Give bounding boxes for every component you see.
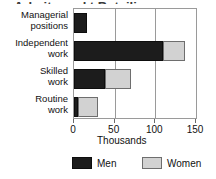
x-axis-tick [154, 119, 155, 123]
x-axis-tick-label: 150 [180, 124, 210, 135]
category-label-line: Managerial [0, 10, 68, 21]
x-axis-tick [195, 119, 196, 123]
legend-item-women: Women [142, 156, 201, 170]
legend-item-men: Men [72, 156, 116, 170]
x-axis-tick-label: 0 [58, 124, 88, 135]
legend-label-men: Men [97, 158, 116, 169]
x-axis-tick [114, 119, 115, 123]
x-axis-title: Thousands [97, 135, 197, 146]
category-label-managerial: Managerial positions [0, 10, 68, 31]
category-label-line: work [0, 105, 68, 116]
category-label-line: Independent [0, 38, 68, 49]
category-label-line: Skilled [0, 66, 68, 77]
category-label-skilled: Skilled work [0, 66, 68, 87]
bar-segment-women [163, 41, 185, 61]
category-label-line: work [0, 49, 68, 60]
legend-swatch-women [142, 157, 162, 169]
chart-title-cropped: Arbeitsmarkt Beteiligung [14, 0, 202, 4]
bar-segment-men [74, 69, 105, 89]
x-axis-tick [73, 119, 74, 123]
bar-segment-women [105, 69, 131, 89]
category-label-line: work [0, 77, 68, 88]
bar-chart: Arbeitsmarkt Beteiligung Managerial posi… [0, 0, 216, 179]
y-axis-category-labels: Managerial positions Independent work Sk… [0, 8, 70, 118]
gridline-50 [115, 9, 116, 118]
category-label-line: Routine [0, 94, 68, 105]
category-label-routine: Routine work [0, 94, 68, 115]
chart-legend: Men Women [72, 156, 216, 172]
x-axis-tick-label: 100 [139, 124, 169, 135]
legend-swatch-men [72, 157, 92, 169]
bar-segment-men [74, 13, 87, 33]
category-label-independent: Independent work [0, 38, 68, 59]
bar-segment-women [78, 97, 98, 117]
gridline-100 [155, 9, 156, 118]
category-label-line: positions [0, 21, 68, 32]
bar-segment-men [74, 41, 163, 61]
plot-area [73, 8, 197, 119]
x-axis-tick-label: 50 [99, 124, 129, 135]
legend-label-women: Women [167, 158, 201, 169]
